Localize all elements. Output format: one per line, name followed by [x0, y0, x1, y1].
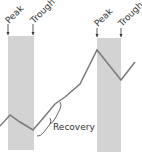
peak-1-label: Peak — [3, 3, 26, 26]
trough-2-arrow-icon — [120, 34, 123, 37]
trough-1-arrow-icon — [32, 32, 35, 35]
recession-band-1 — [8, 36, 34, 150]
trough-1-label: Trough — [28, 0, 57, 26]
business-cycle-diagram: Peak Trough Peak Trough Recovery — [0, 0, 142, 156]
peak-2-label: Peak — [92, 6, 115, 29]
trough-2-label: Trough — [116, 0, 142, 29]
recovery-label: Recovery — [53, 122, 95, 132]
peak-1-arrow-icon — [7, 32, 10, 35]
peak-2-arrow-icon — [96, 34, 99, 37]
